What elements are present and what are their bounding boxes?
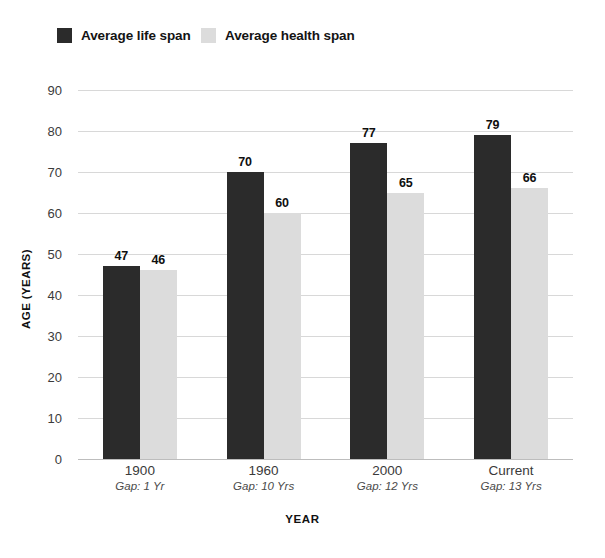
bar-life-span-1960 (227, 172, 264, 459)
light-swatch-icon (201, 28, 216, 43)
legend-item-label: Average health span (225, 28, 355, 43)
bar-value-label: 60 (275, 196, 289, 210)
bar-value-label: 77 (362, 126, 376, 140)
legend-item-label: Average life span (81, 28, 191, 43)
x-axis-category-current: CurrentGap: 13 Yrs (481, 462, 542, 494)
bar-health-span-current (511, 188, 548, 459)
x-axis-category-1960: 1960Gap: 10 Yrs (233, 462, 294, 494)
y-axis-tick-labels: 0102030405060708090 (0, 90, 70, 459)
category-gap-label: Gap: 13 Yrs (481, 479, 542, 494)
bar-life-span-current (474, 135, 511, 459)
bar-health-span-1900 (140, 270, 177, 459)
bar-life-span-2000 (350, 143, 387, 459)
bar-value-label: 47 (114, 249, 128, 263)
y-axis-tick-label: 30 (48, 329, 62, 344)
legend-item-health-span: Average health span (201, 22, 355, 48)
y-axis-title: AGE (YEARS) (17, 239, 35, 339)
chart-legend: Average life span Average health span (0, 22, 605, 48)
y-axis-title-text: AGE (YEARS) (20, 249, 32, 329)
category-name: 1960 (233, 462, 294, 479)
category-name: 1900 (115, 462, 164, 479)
category-name: Current (481, 462, 542, 479)
axis-baseline (78, 459, 573, 460)
y-axis-tick-label: 40 (48, 288, 62, 303)
bar-value-label: 65 (399, 176, 413, 190)
y-axis-tick-label: 50 (48, 247, 62, 262)
y-axis-tick-label: 60 (48, 206, 62, 221)
x-axis-category-1900: 1900Gap: 1 Yr (115, 462, 164, 494)
bar-value-label: 70 (238, 155, 252, 169)
category-gap-label: Gap: 10 Yrs (233, 479, 294, 494)
bar-value-label: 66 (523, 171, 537, 185)
dark-swatch-icon (57, 28, 72, 43)
bar-value-label: 79 (486, 118, 500, 132)
y-axis-tick-label: 90 (48, 83, 62, 98)
y-axis-tick-label: 0 (55, 452, 62, 467)
bar-health-span-2000 (387, 193, 424, 460)
category-name: 2000 (357, 462, 418, 479)
y-axis-tick-label: 10 (48, 411, 62, 426)
x-axis-title: YEAR (0, 513, 605, 525)
gridline (78, 90, 573, 91)
y-axis-tick-label: 20 (48, 370, 62, 385)
category-gap-label: Gap: 12 Yrs (357, 479, 418, 494)
plot-area: 4746706077657966 (78, 90, 573, 459)
x-axis-category-2000: 2000Gap: 12 Yrs (357, 462, 418, 494)
y-axis-tick-label: 80 (48, 124, 62, 139)
bar-value-label: 46 (151, 253, 165, 267)
x-axis-category-labels: 1900Gap: 1 Yr1960Gap: 10 Yrs2000Gap: 12 … (78, 462, 573, 508)
category-gap-label: Gap: 1 Yr (115, 479, 164, 494)
legend-item-life-span: Average life span (57, 22, 191, 48)
bar-health-span-1960 (264, 213, 301, 459)
bar-life-span-1900 (103, 266, 140, 459)
chart-page: { "chart_data": { "type": "bar", "title"… (0, 0, 605, 558)
y-axis-tick-label: 70 (48, 165, 62, 180)
